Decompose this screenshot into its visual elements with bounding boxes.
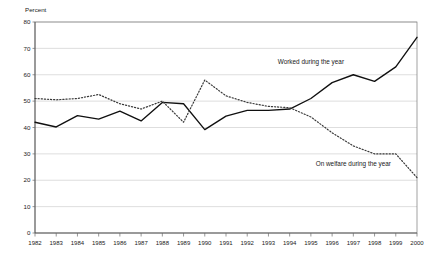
y-tick-label: 60 — [24, 71, 31, 78]
series-annotation-label: On welfare during the year — [316, 160, 392, 168]
x-tick-label: 1999 — [389, 240, 403, 246]
x-tick-label: 1997 — [347, 240, 361, 246]
x-tick-label: 1983 — [50, 240, 64, 246]
x-tick-label: 1987 — [134, 240, 148, 246]
x-tick-label: 1982 — [28, 240, 42, 246]
x-tick-label: 1993 — [262, 240, 276, 246]
y-tick-label: 80 — [24, 18, 31, 25]
x-tick-label: 1996 — [325, 240, 339, 246]
y-axis-title: Percent — [25, 6, 47, 13]
y-tick-label: 70 — [24, 45, 31, 52]
x-tick-label: 2000 — [410, 240, 424, 246]
x-tick-label: 1991 — [219, 240, 233, 246]
x-tick-label: 1998 — [368, 240, 382, 246]
x-tick-label: 1989 — [177, 240, 191, 246]
y-tick-label: 50 — [24, 97, 31, 104]
y-tick-label: 30 — [24, 150, 31, 157]
x-tick-label: 1990 — [198, 240, 212, 246]
x-tick-label: 1986 — [113, 240, 127, 246]
chart-container: 01020304050607080 1982198319841985198619… — [0, 0, 432, 256]
x-tick-label: 1994 — [283, 240, 297, 246]
y-tick-label: 20 — [24, 176, 31, 183]
y-tick-label: 10 — [24, 203, 31, 210]
y-tick-label: 0 — [27, 229, 31, 236]
series-annotation-label: Worked during the year — [278, 58, 345, 66]
x-tick-label: 1984 — [71, 240, 85, 246]
x-tick-label: 1995 — [304, 240, 318, 246]
chart-background — [0, 0, 432, 256]
x-tick-label: 1988 — [156, 240, 170, 246]
x-tick-label: 1985 — [92, 240, 106, 246]
x-tick-label: 1992 — [241, 240, 255, 246]
line-chart: 01020304050607080 1982198319841985198619… — [0, 0, 432, 256]
y-tick-label: 40 — [24, 124, 31, 131]
